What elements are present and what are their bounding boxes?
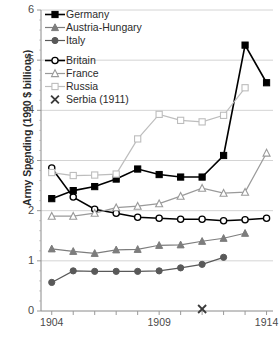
legend-marker-open-circle-icon [44,54,66,67]
series-italy [49,254,227,285]
marker-filled-square [199,174,205,180]
marker-open-square [242,85,248,91]
series-france [48,149,270,219]
marker-filled-square [220,152,226,158]
marker-x-cross [51,96,59,104]
legend-spacer [44,47,156,54]
marker-open-circle [263,215,269,221]
army-spending-chart: Army Spending (1990 $ billions) 0123456 … [0,0,279,353]
marker-filled-circle [199,261,205,267]
series-line [52,233,245,253]
marker-open-square [156,111,162,117]
legend-item-france[interactable]: France [44,67,156,80]
marker-open-square [113,171,119,177]
legend-label: Germany [66,8,109,21]
legend-label: Britain [66,54,96,67]
legend-item-austria-hungary[interactable]: Austria-Hungary [44,21,156,34]
legend-marker-filled-triangle-icon [44,21,66,34]
marker-open-square [178,117,184,123]
marker-open-square [49,169,55,175]
marker-open-triangle [199,184,206,191]
legend-label: France [66,67,99,80]
series-austria-hungary [48,230,248,257]
marker-filled-circle [178,265,184,271]
legend-item-serbia-[interactable]: Serbia (1911) [44,93,156,106]
marker-open-circle [156,215,162,221]
chart-legend: GermanyAustria-HungaryItalyBritainFrance… [44,8,156,106]
marker-filled-square [135,166,141,172]
marker-open-circle [220,218,226,224]
marker-open-circle [242,217,248,223]
marker-open-circle [52,57,58,63]
legend-item-russia[interactable]: Russia [44,80,156,93]
marker-filled-square [263,80,269,86]
legend-marker-x-cross-icon [44,93,66,106]
marker-filled-triangle [242,230,249,237]
marker-filled-square [49,196,55,202]
marker-filled-square [92,183,98,189]
marker-filled-square [242,42,248,48]
marker-open-square [220,112,226,118]
marker-filled-circle [49,279,55,285]
legend-label: Serbia (1911) [66,93,129,106]
marker-filled-circle [92,268,98,274]
marker-filled-square [70,188,76,194]
marker-open-square [92,172,98,178]
marker-filled-square [178,174,184,180]
marker-open-circle [70,194,76,200]
legend-item-britain[interactable]: Britain [44,54,156,67]
legend-marker-open-square-icon [44,80,66,93]
marker-filled-circle [113,268,119,274]
marker-filled-square [52,11,58,17]
legend-marker-filled-circle-icon [44,34,66,47]
marker-open-square [199,119,205,125]
legend-item-germany[interactable]: Germany [44,8,156,21]
marker-filled-circle [52,37,58,43]
marker-filled-circle [135,268,141,274]
legend-label: Russia [66,80,98,93]
marker-open-circle [178,216,184,222]
marker-open-circle [199,216,205,222]
marker-open-triangle [263,149,270,156]
legend-marker-filled-square-icon [44,8,66,21]
legend-item-italy[interactable]: Italy [44,34,156,47]
marker-open-square [70,172,76,178]
marker-open-square [135,136,141,142]
marker-filled-square [156,171,162,177]
marker-open-circle [135,214,141,220]
legend-label: Austria-Hungary [66,21,142,34]
marker-filled-circle [70,268,76,274]
marker-open-square [52,83,58,89]
marker-filled-circle [156,268,162,274]
legend-label: Italy [66,34,85,47]
marker-filled-circle [220,254,226,260]
legend-marker-open-triangle-icon [44,67,66,80]
